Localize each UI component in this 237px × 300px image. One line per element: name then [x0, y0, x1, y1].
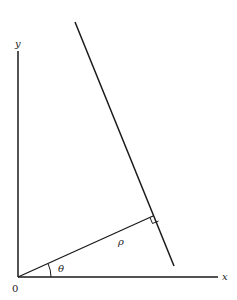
y-axis-label: y — [14, 38, 21, 49]
rho-segment — [18, 216, 153, 277]
origin-label: 0 — [12, 283, 18, 294]
x-axis-label: x — [222, 271, 228, 282]
theta-arc — [48, 264, 51, 278]
rho-label: ρ — [117, 236, 124, 247]
theta-label: θ — [58, 263, 64, 274]
hough-line-diagram: y x 0 θ ρ — [0, 0, 237, 300]
